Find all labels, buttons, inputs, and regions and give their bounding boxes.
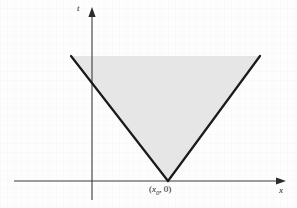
shaded-cone-region (71, 56, 260, 181)
t-axis-label: t (77, 4, 80, 13)
t-axis-arrowhead-icon (88, 7, 95, 17)
x-axis-arrowhead-icon (276, 177, 286, 184)
apex-point-label: (x0, 0) (149, 185, 171, 196)
apex-label-close-paren: ) (168, 184, 171, 194)
figure-container: t x (x0, 0) (0, 0, 297, 208)
x-axis-label: x (279, 186, 283, 195)
plot-canvas (0, 0, 297, 208)
